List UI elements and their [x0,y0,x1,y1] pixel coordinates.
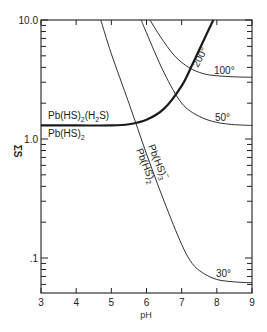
label-30-deg: 30° [216,268,231,279]
x-tick-label: 7 [179,297,185,308]
chart: 345678910.01.0.1 ΣS pH Pb(HS)2(H2S) Pb(H… [0,0,267,332]
label-pb-hs2: Pb(HS)2 [48,128,85,141]
chart-svg: 345678910.01.0.1 ΣS pH Pb(HS)2(H2S) Pb(H… [0,0,267,332]
curve-30-deg [101,20,252,283]
x-axis-label: pH [140,310,152,320]
axes: 345678910.01.0.1 [19,15,256,308]
x-tick-label: 5 [109,297,115,308]
label-100-deg: 100° [214,65,235,76]
x-tick-label: 6 [144,297,150,308]
label-200-deg: 200° [190,46,209,69]
x-tick-label: 3 [38,297,44,308]
label-50-deg: 50° [215,112,230,123]
y-tick-label: 1.0 [24,134,38,145]
curve-50-deg [141,20,252,125]
x-tick-label: 8 [214,297,220,308]
y-axis-label: ΣS [12,145,23,158]
y-tick-label: .1 [30,253,39,264]
x-tick-label: 4 [73,297,79,308]
y-tick-label: 10.0 [19,15,39,26]
label-pb-hs2-h2s: Pb(HS)2(H2S) [48,110,109,123]
x-tick-label: 9 [249,297,255,308]
